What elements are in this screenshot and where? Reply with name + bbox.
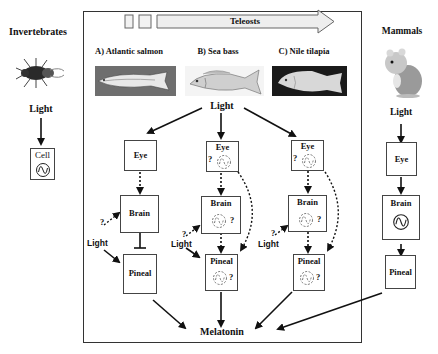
seabass-pineal-question: ?	[229, 272, 233, 282]
hamster-image	[382, 43, 424, 99]
insect-image	[14, 57, 66, 89]
tilapia-eye-question: ?	[293, 153, 297, 163]
mammal-eye-label: Eye	[387, 154, 416, 164]
mammal-brain-label: Brain	[383, 198, 419, 208]
tilapia-brain-input-question: ?	[271, 228, 275, 238]
seabass-brain-input-question: ?	[182, 229, 186, 239]
cell-box: Cell	[30, 148, 55, 180]
atlantic-salmon-image	[95, 66, 176, 96]
tilapia-brain-box: Brain ?	[288, 195, 327, 232]
tilapia-brain-label: Brain	[289, 197, 326, 207]
seabass-pineal-box: Pineal ?	[205, 254, 238, 291]
salmon-brain-box: Brain	[120, 195, 159, 233]
seabass-eye-box: Eye ?	[206, 141, 239, 172]
mammals-light-label: Light	[385, 107, 417, 117]
teleosts-banner-label: Teleosts	[205, 16, 285, 26]
tilapia-pineal-label: Pineal	[294, 256, 324, 266]
mammal-eye-box: Eye	[386, 142, 417, 176]
salmon-light-label: Light	[87, 238, 108, 248]
tilapia-eye-label: Eye	[292, 141, 323, 151]
teleosts-light-label: Light	[205, 100, 239, 111]
oscillator-icon	[35, 162, 51, 178]
seabass-brain-oscillator-icon	[211, 213, 227, 229]
tilapia-brain-oscillator-icon	[298, 212, 314, 228]
salmon-eye-box: Eye	[124, 140, 157, 171]
mammals-title: Mammals	[378, 26, 426, 36]
salmon-eye-label: Eye	[125, 150, 156, 160]
salmon-brain-question: ?	[100, 217, 104, 227]
seabass-eye-label: Eye	[207, 142, 238, 152]
salmon-brain-label: Brain	[121, 208, 158, 218]
tilapia-pineal-oscillator-icon	[299, 270, 315, 286]
salmon-pineal-label: Pineal	[124, 268, 156, 278]
seabass-brain-label: Brain	[202, 198, 240, 208]
mammal-pineal-box: Pineal	[385, 255, 416, 289]
seabass-brain-box: Brain ?	[201, 196, 241, 234]
mammal-brain-oscillator-icon	[392, 213, 410, 231]
tilapia-pineal-question: ?	[316, 272, 320, 282]
nile-tilapia-image	[272, 66, 347, 96]
cell-label: Cell	[31, 150, 54, 160]
seabass-eye-oscillator-icon	[216, 154, 232, 170]
mammal-pineal-label: Pineal	[386, 267, 415, 277]
melatonin-label: Melatonin	[192, 326, 252, 337]
tilapia-eye-oscillator-icon	[301, 153, 317, 169]
mammal-brain-box: Brain	[382, 195, 420, 240]
seabass-light-label: Light	[171, 239, 192, 249]
seabass-brain-question: ?	[230, 215, 234, 225]
species-label-sea-bass: B) Sea bass	[183, 46, 253, 56]
seabass-pineal-oscillator-icon	[212, 270, 228, 286]
seabass-pineal-label: Pineal	[206, 256, 237, 266]
salmon-pineal-box: Pineal	[123, 254, 157, 294]
species-label-nile-tilapia: C) Nile tilapia	[266, 46, 342, 56]
invertebrates-light-label: Light	[26, 103, 56, 114]
species-label-atlantic-salmon: A) Atlantic salmon	[90, 46, 168, 56]
sea-bass-image	[185, 66, 264, 96]
invertebrates-title: Invertebrates	[6, 26, 70, 37]
tilapia-pineal-box: Pineal ?	[293, 254, 325, 291]
seabass-eye-question: ?	[208, 154, 212, 164]
tilapia-brain-question: ?	[317, 214, 321, 224]
tilapia-eye-box: Eye ?	[291, 140, 324, 171]
tilapia-light-label: Light	[258, 239, 279, 249]
